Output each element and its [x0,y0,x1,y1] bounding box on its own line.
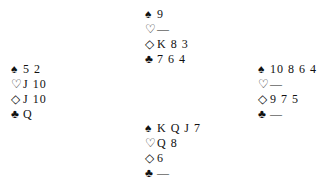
north-clubs-cards: 7 6 4 [157,52,186,66]
east-hand: ♠10 8 6 4 ♡— ◇9 7 5 ♣— [258,62,317,122]
diamond-icon: ◇ [258,92,270,107]
spade-icon: ♠ [145,7,157,22]
diamond-icon: ◇ [11,92,23,107]
diamond-icon: ◇ [145,151,157,166]
west-spades-cards: 5 2 [23,62,41,76]
west-diamonds: ◇J 10 [11,92,47,107]
spade-icon: ♠ [145,121,157,136]
north-hearts: ♡— [145,22,189,37]
south-spades-cards: K Q J 7 [157,121,201,135]
north-spades-cards: 9 [157,7,164,21]
south-clubs-cards: — [157,166,170,180]
north-diamonds-cards: K 8 3 [157,37,189,51]
east-hearts: ♡— [258,77,317,92]
east-diamonds: ◇9 7 5 [258,92,317,107]
heart-icon: ♡ [258,77,270,92]
east-clubs-cards: — [270,107,283,121]
west-hearts: ♡J 10 [11,77,47,92]
north-clubs: ♣7 6 4 [145,52,189,67]
diamond-icon: ◇ [145,37,157,52]
west-spades: ♠5 2 [11,62,47,77]
north-hearts-cards: — [157,22,170,36]
heart-icon: ♡ [145,22,157,37]
south-diamonds: ◇6 [145,151,201,166]
west-hand: ♠5 2 ♡J 10 ◇J 10 ♣Q [11,62,47,122]
club-icon: ♣ [258,107,270,122]
south-diamonds-cards: 6 [157,151,164,165]
club-icon: ♣ [11,107,23,122]
west-clubs-cards: Q [23,107,33,121]
east-hearts-cards: — [270,77,283,91]
east-clubs: ♣— [258,107,317,122]
south-hearts: ♡Q 8 [145,136,201,151]
club-icon: ♣ [145,52,157,67]
north-diamonds: ◇K 8 3 [145,37,189,52]
south-hearts-cards: Q 8 [157,136,178,150]
north-spades: ♠9 [145,7,189,22]
spade-icon: ♠ [258,62,270,77]
south-clubs: ♣— [145,166,201,181]
north-hand: ♠9 ♡— ◇K 8 3 ♣7 6 4 [145,7,189,67]
south-spades: ♠K Q J 7 [145,121,201,136]
west-hearts-cards: J 10 [23,77,47,91]
heart-icon: ♡ [11,77,23,92]
heart-icon: ♡ [145,136,157,151]
club-icon: ♣ [145,166,157,181]
west-diamonds-cards: J 10 [23,92,47,106]
east-diamonds-cards: 9 7 5 [270,92,299,106]
east-spades-cards: 10 8 6 4 [270,62,317,76]
west-clubs: ♣Q [11,107,47,122]
east-spades: ♠10 8 6 4 [258,62,317,77]
south-hand: ♠K Q J 7 ♡Q 8 ◇6 ♣— [145,121,201,181]
spade-icon: ♠ [11,62,23,77]
